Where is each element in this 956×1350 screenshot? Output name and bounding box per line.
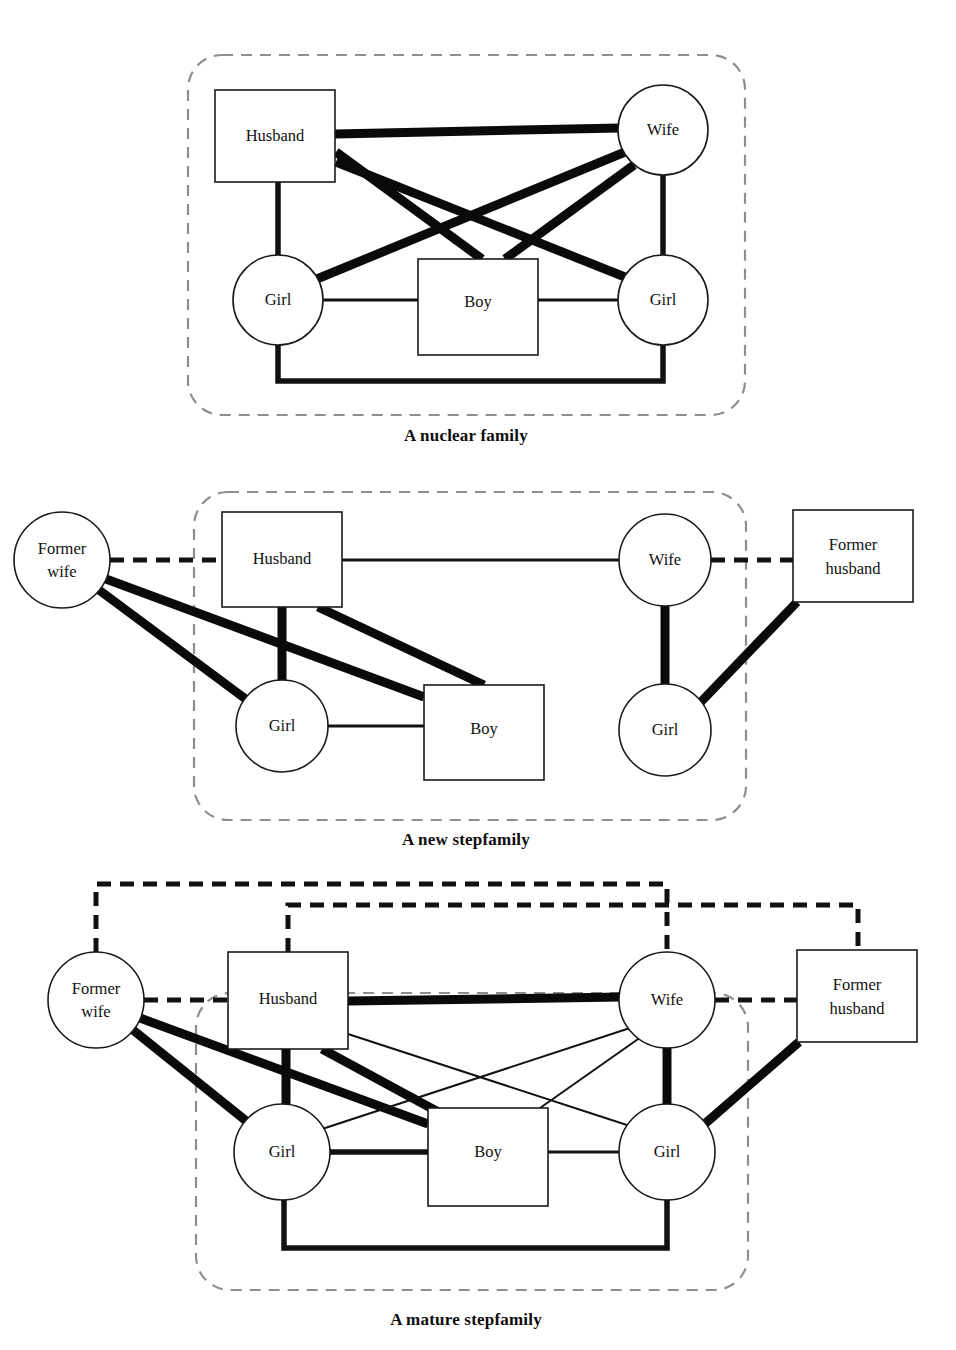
diagram-new-stepfamily: Former wife Husband Wife Former husband … [14, 492, 913, 849]
node-wife[interactable]: Wife [619, 952, 715, 1048]
node-former-wife[interactable]: Former wife [14, 512, 110, 608]
caption-new-stepfamily: A new stepfamily [402, 830, 530, 849]
node-wife[interactable]: Wife [618, 85, 708, 175]
edge-wife-boy [540, 1037, 641, 1108]
bracket-husband-to-former-husband [288, 905, 858, 952]
node-girl-left-shape [233, 255, 323, 345]
edge-former-husband-girl-right [700, 1042, 799, 1128]
node-boy[interactable]: Boy [424, 685, 544, 780]
node-husband[interactable]: Husband [228, 952, 348, 1049]
node-wife[interactable]: Wife [619, 514, 711, 606]
node-wife-shape [619, 952, 715, 1048]
diagram-nuclear-family: Husband Wife Girl Boy Girl A nuclear fam… [188, 55, 745, 445]
bracket-former-wife-to-wife [96, 884, 667, 952]
node-former-husband-shape [793, 510, 913, 602]
node-girl-left[interactable]: Girl [234, 1104, 330, 1200]
node-husband-shape [222, 512, 342, 607]
node-boy[interactable]: Boy [418, 259, 538, 355]
edge-husband-boy [318, 607, 484, 685]
node-boy-shape [424, 685, 544, 780]
node-boy-shape [418, 259, 538, 355]
caption-nuclear-family: A nuclear family [404, 426, 528, 445]
diagram-mature-stepfamily: Former wife Husband Wife Former husband … [48, 884, 917, 1329]
node-wife-shape [618, 85, 708, 175]
node-husband[interactable]: Husband [215, 90, 335, 182]
edge-husband-wife [335, 128, 620, 134]
node-girl-left-shape [234, 1104, 330, 1200]
edge-husband-wife [348, 997, 622, 1001]
node-former-wife-shape [14, 512, 110, 608]
node-girl-left-shape [236, 680, 328, 772]
node-girl-right[interactable]: Girl [619, 1104, 715, 1200]
caption-mature-stepfamily: A mature stepfamily [390, 1310, 542, 1329]
node-boy-shape [428, 1108, 548, 1206]
node-husband-shape [228, 952, 348, 1049]
node-girl-right-shape [619, 1104, 715, 1200]
node-husband-shape [215, 90, 335, 182]
family-systems-diagram-canvas: Husband Wife Girl Boy Girl A nuclear fam… [0, 0, 956, 1350]
node-girl-right[interactable]: Girl [618, 255, 708, 345]
node-girl-right-shape [619, 684, 711, 776]
node-girl-right[interactable]: Girl [619, 684, 711, 776]
diagram-page: Husband Wife Girl Boy Girl A nuclear fam… [0, 0, 956, 1350]
node-former-husband-shape [797, 950, 917, 1042]
node-boy[interactable]: Boy [428, 1108, 548, 1206]
node-former-wife[interactable]: Former wife [48, 952, 144, 1048]
node-girl-left[interactable]: Girl [233, 255, 323, 345]
node-former-wife-shape [48, 952, 144, 1048]
node-girl-left[interactable]: Girl [236, 680, 328, 772]
node-husband[interactable]: Husband [222, 512, 342, 607]
node-girl-right-shape [618, 255, 708, 345]
node-former-husband[interactable]: Former husband [797, 950, 917, 1042]
edge-girl-left-girl-right-bottom [284, 1200, 667, 1248]
node-wife-shape [619, 514, 711, 606]
node-former-husband[interactable]: Former husband [793, 510, 913, 602]
